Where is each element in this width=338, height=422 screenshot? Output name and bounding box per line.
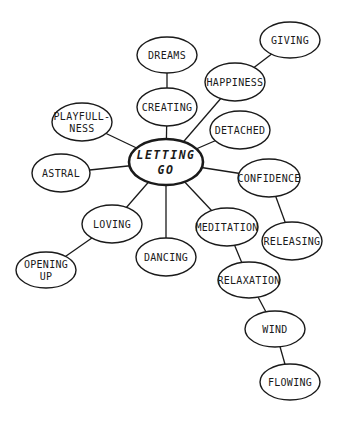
node-dancing: DANCING (136, 238, 196, 276)
node-dreams: DREAMS (137, 37, 197, 73)
node-label: RELEASING (264, 236, 321, 247)
node-label: GO (158, 163, 175, 177)
nodes-layer: LETTINGGODREAMSCREATINGGIVINGHAPPINESSDE… (16, 22, 322, 400)
node-playfulness: PLAYFULL-NESS (52, 103, 112, 141)
mind-map-canvas: LETTINGGODREAMSCREATINGGIVINGHAPPINESSDE… (0, 0, 338, 422)
node-label: GIVING (271, 35, 309, 46)
node-detached: DETACHED (210, 111, 270, 149)
node-label: ASTRAL (42, 168, 80, 179)
node-flowing: FLOWING (260, 364, 320, 400)
central-node: LETTINGGO (129, 139, 203, 185)
node-label: DANCING (144, 252, 188, 263)
node-creating: CREATING (137, 88, 197, 126)
mind-map-diagram: LETTINGGODREAMSCREATINGGIVINGHAPPINESSDE… (0, 0, 338, 422)
node-releasing: RELEASING (262, 222, 322, 260)
node-confidence: CONFIDENCE (237, 159, 300, 197)
node-label: PLAYFULL- (54, 111, 111, 122)
node-label: DETACHED (215, 125, 266, 136)
node-label: OPENING (24, 259, 68, 270)
node-happiness: HAPPINESS (205, 63, 265, 101)
node-label: NESS (69, 123, 94, 134)
node-label: FLOWING (268, 377, 312, 388)
node-wind: WIND (245, 311, 305, 347)
node-opening-up: OPENINGUP (16, 252, 76, 288)
node-loving: LOVING (82, 205, 142, 243)
node-label: RELAXATION (217, 275, 280, 286)
node-label: DREAMS (148, 50, 186, 61)
node-label: HAPPINESS (207, 77, 264, 88)
node-label: CREATING (142, 102, 193, 113)
node-meditation: MEDITATION (195, 208, 258, 246)
node-label: LOVING (93, 219, 131, 230)
node-label: LETTING (137, 148, 196, 162)
node-astral: ASTRAL (32, 154, 90, 192)
node-label: WIND (262, 324, 287, 335)
node-giving: GIVING (260, 22, 320, 58)
node-label: UP (40, 271, 53, 282)
node-relaxation: RELAXATION (217, 262, 280, 298)
node-label: MEDITATION (195, 222, 258, 233)
node-label: CONFIDENCE (237, 173, 300, 184)
